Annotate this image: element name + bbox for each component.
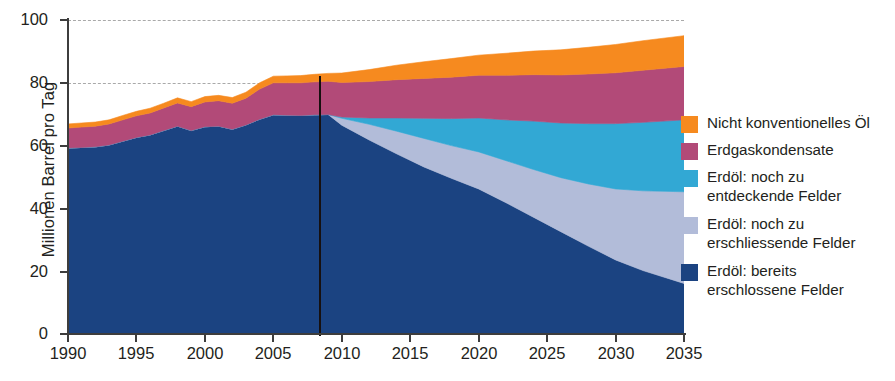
y-tick-60 [60, 145, 67, 147]
legend-item-unconventional-oil[interactable]: Nicht konventionelles Öl [681, 114, 895, 133]
x-tick-label-2030: 2030 [586, 344, 646, 363]
y-tick-label-0: 0 [8, 324, 48, 343]
x-axis-line [67, 333, 686, 335]
legend-label-line2: erschliessende Felder [707, 234, 856, 251]
legend-label-undiscovered-fields: Erdöl: noch zu entdeckende Felder [707, 168, 841, 205]
chart-figure: Millionen Barrel pro Tag 100 80 60 40 20… [0, 0, 895, 381]
legend-swatch-icon-developed-fields [681, 264, 698, 281]
legend-label-undeveloped-fields: Erdöl: noch zu erschliessende Felder [707, 215, 856, 252]
legend-item-developed-fields[interactable]: Erdöl: bereits erschlossene Felder [681, 262, 895, 299]
y-tick-40 [60, 208, 67, 210]
legend-swatch-icon-gas-condensate [681, 143, 698, 160]
x-tick-2035 [683, 335, 685, 342]
y-tick-100 [60, 19, 67, 21]
legend-label-gas-condensate: Erdgaskondensate [707, 141, 834, 160]
chart-legend: Nicht konventionelles Öl Erdgaskondensat… [681, 114, 895, 309]
legend-item-undeveloped-fields[interactable]: Erdöl: noch zu erschliessende Felder [681, 215, 895, 252]
y-tick-label-100: 100 [8, 10, 48, 29]
legend-label-line2: entdeckende Felder [707, 187, 841, 204]
x-tick-1995 [135, 335, 137, 342]
x-tick-2005 [272, 335, 274, 342]
legend-label-line1: Erdgaskondensate [707, 141, 834, 158]
x-tick-label-1990: 1990 [38, 344, 98, 363]
y-tick-0 [60, 333, 67, 335]
x-tick-label-2000: 2000 [175, 344, 235, 363]
x-tick-2020 [478, 335, 480, 342]
legend-label-unconventional-oil: Nicht konventionelles Öl [707, 114, 870, 133]
y-tick-label-60: 60 [8, 136, 48, 155]
legend-label-line1: Erdöl: noch zu [707, 168, 804, 185]
legend-label-line2: erschlossene Felder [707, 281, 844, 298]
x-tick-label-2010: 2010 [312, 344, 372, 363]
y-axis-line [67, 18, 69, 336]
legend-label-line1: Nicht konventionelles Öl [707, 114, 870, 131]
x-tick-2025 [546, 335, 548, 342]
stacked-area-plot [68, 20, 684, 334]
y-tick-label-80: 80 [8, 73, 48, 92]
legend-item-undiscovered-fields[interactable]: Erdöl: noch zu entdeckende Felder [681, 168, 895, 205]
y-tick-label-20: 20 [8, 262, 48, 281]
y-axis-title: Millionen Barrel pro Tag [39, 10, 58, 330]
legend-label-developed-fields: Erdöl: bereits erschlossene Felder [707, 262, 844, 299]
y-tick-80 [60, 82, 67, 84]
x-tick-2015 [409, 335, 411, 342]
x-tick-1990 [67, 335, 69, 342]
y-tick-label-40: 40 [8, 199, 48, 218]
x-tick-label-2005: 2005 [243, 344, 303, 363]
legend-swatch-icon-undiscovered-fields [681, 170, 698, 187]
x-tick-label-2015: 2015 [380, 344, 440, 363]
x-tick-label-2020: 2020 [449, 344, 509, 363]
legend-label-line1: Erdöl: bereits [707, 262, 796, 279]
legend-label-line1: Erdöl: noch zu [707, 215, 804, 232]
y-tick-20 [60, 271, 67, 273]
current-year-divider-line [319, 76, 321, 336]
legend-swatch-icon-undeveloped-fields [681, 217, 698, 234]
x-tick-2000 [204, 335, 206, 342]
x-tick-label-2035: 2035 [654, 344, 714, 363]
x-tick-label-1995: 1995 [106, 344, 166, 363]
area-series-group [68, 20, 684, 334]
legend-swatch-icon-unconventional-oil [681, 116, 698, 133]
legend-item-gas-condensate[interactable]: Erdgaskondensate [681, 141, 895, 160]
x-tick-label-2025: 2025 [517, 344, 577, 363]
x-tick-2030 [615, 335, 617, 342]
x-tick-2010 [341, 335, 343, 342]
